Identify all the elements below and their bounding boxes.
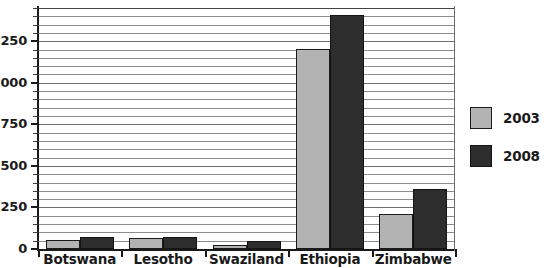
y-axis-line <box>37 6 39 251</box>
x-axis-category-label: Ethiopia <box>288 251 371 267</box>
y-tick-minor <box>33 224 39 225</box>
y-tick-major <box>31 123 39 125</box>
y-axis-label: 750 <box>0 117 27 130</box>
x-axis-tick <box>121 249 123 257</box>
x-axis-tick <box>455 249 457 257</box>
y-tick-minor <box>33 116 39 117</box>
y-axis-label: 250 <box>0 200 27 213</box>
y-tick-minor <box>33 141 39 142</box>
legend-item: 2008 <box>470 142 546 170</box>
legend-swatch-icon <box>470 145 492 167</box>
y-tick-minor <box>33 232 39 233</box>
y-tick-minor <box>33 99 39 100</box>
y-tick-minor <box>33 108 39 109</box>
y-tick-minor <box>33 174 39 175</box>
bar <box>330 15 364 249</box>
y-tick-minor <box>33 199 39 200</box>
legend-label: 2008 <box>503 148 540 164</box>
bar <box>80 237 114 249</box>
x-axis-category-label: Swaziland <box>205 251 288 267</box>
y-tick-major <box>31 40 39 42</box>
y-tick-minor <box>33 216 39 217</box>
legend-item: 2003 <box>470 104 546 132</box>
y-tick-minor <box>33 25 39 26</box>
bars-layer <box>38 8 455 249</box>
y-tick-minor <box>33 58 39 59</box>
y-axis-label: 1250 <box>0 34 27 47</box>
plot-right-edge <box>454 6 455 251</box>
bar <box>129 238 163 249</box>
y-tick-minor <box>33 74 39 75</box>
y-tick-minor <box>33 66 39 67</box>
x-axis-tick <box>38 249 40 257</box>
y-tick-minor <box>33 158 39 159</box>
y-tick-minor <box>33 8 39 9</box>
y-tick-major <box>31 82 39 84</box>
x-axis-tick <box>288 249 290 257</box>
x-axis-tick <box>205 249 207 257</box>
x-axis-category-label: Zimbabwe <box>372 251 455 267</box>
legend-swatch-icon <box>470 107 492 129</box>
y-tick-major <box>31 165 39 167</box>
y-tick-minor <box>33 241 39 242</box>
y-axis-label: 0 <box>18 242 27 255</box>
legend-label: 2003 <box>503 110 540 126</box>
bar-chart: 025050075010001250 BotswanaLesothoSwazil… <box>0 0 548 268</box>
y-tick-minor <box>33 91 39 92</box>
plot-area <box>38 8 455 249</box>
y-axis-label: 1000 <box>0 76 27 89</box>
x-axis-category-label: Lesotho <box>121 251 204 267</box>
y-tick-minor <box>33 50 39 51</box>
chart-legend: 20032008 <box>470 104 546 180</box>
y-tick-minor <box>33 133 39 134</box>
bar <box>413 189 447 249</box>
x-axis-category-label: Botswana <box>38 251 121 267</box>
bar <box>247 241 281 249</box>
y-tick-minor <box>33 191 39 192</box>
bar <box>296 49 330 249</box>
y-axis-label: 500 <box>0 159 27 172</box>
y-tick-minor <box>33 16 39 17</box>
y-tick-minor <box>33 183 39 184</box>
bar <box>46 240 80 249</box>
y-tick-minor <box>33 149 39 150</box>
bar <box>379 214 413 249</box>
y-tick-minor <box>33 33 39 34</box>
bar <box>163 237 197 249</box>
y-tick-major <box>31 206 39 208</box>
x-axis-tick <box>372 249 374 257</box>
